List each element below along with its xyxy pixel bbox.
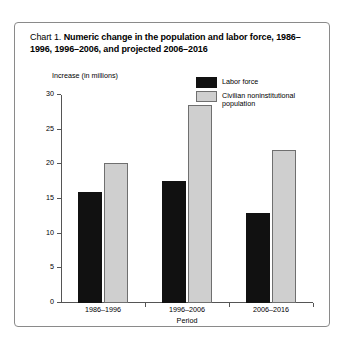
chart-title-prefix: Chart 1. [30, 32, 61, 42]
bar [246, 213, 270, 303]
chart-frame: Chart 1. Numeric change in the populatio… [14, 22, 330, 327]
plot-area: 051015202530 1986–19961996–20062006–2016… [61, 95, 313, 303]
x-tick [313, 303, 314, 307]
legend-label-labor-force: Labor force [222, 77, 258, 86]
y-tick-label: 20 [46, 158, 54, 167]
y-tick: 0 [57, 302, 61, 303]
y-axis-line [61, 95, 62, 303]
bar [272, 150, 296, 303]
y-tick-label: 5 [50, 262, 54, 271]
legend-item-labor-force: Labor force [196, 77, 326, 88]
bar [162, 181, 186, 303]
y-tick-label: 25 [46, 124, 54, 133]
y-tick: 15 [57, 198, 61, 199]
y-tick-label: 0 [50, 297, 54, 306]
chart-title-body: Numeric change in the population and lab… [30, 32, 301, 54]
bar [104, 163, 128, 303]
bar [78, 192, 102, 303]
y-tick: 25 [57, 129, 61, 130]
category-label: 2006–2016 [253, 305, 289, 314]
x-axis-title: Period [177, 316, 198, 325]
y-tick: 20 [57, 163, 61, 164]
y-tick-label: 10 [46, 228, 54, 237]
chart-title: Chart 1. Numeric change in the populatio… [30, 31, 305, 56]
legend-swatch-labor-force [196, 77, 217, 88]
y-tick: 30 [57, 94, 61, 95]
category-label: 1986–1996 [85, 305, 121, 314]
y-axis-title: Increase (in millions) [52, 71, 118, 80]
y-tick-label: 30 [46, 89, 54, 98]
x-tick [145, 303, 146, 307]
category-label: 1996–2006 [169, 305, 205, 314]
y-tick: 10 [57, 233, 61, 234]
y-tick: 5 [57, 267, 61, 268]
bar [188, 105, 212, 303]
y-tick-label: 15 [46, 193, 54, 202]
x-tick [229, 303, 230, 307]
